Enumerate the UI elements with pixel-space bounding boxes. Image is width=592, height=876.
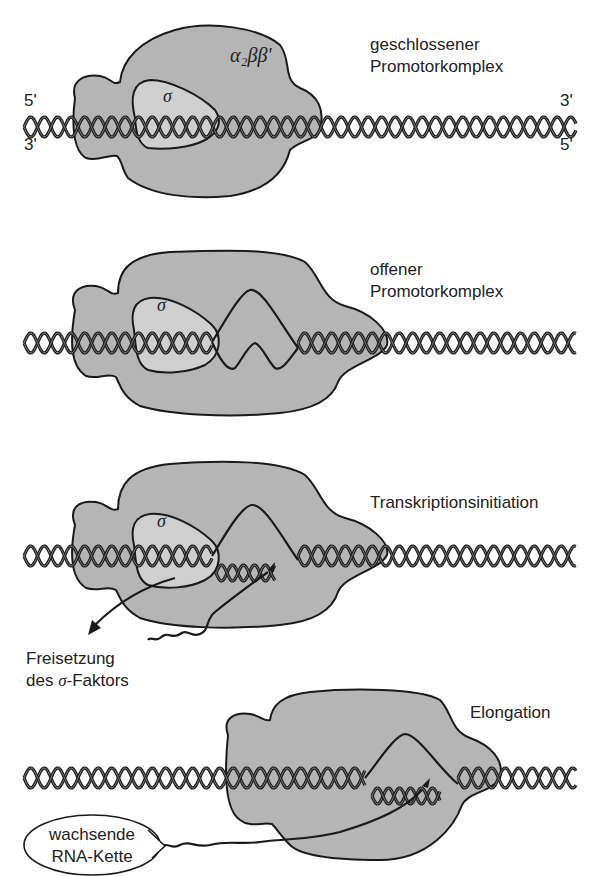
panel-label-line2: Promotorkomplex	[370, 57, 504, 76]
transcription-diagram: α₂ββ' σ geschlossener Promotorkomplex 5'…	[0, 0, 592, 876]
rna-polymerase-core-body	[72, 462, 387, 628]
strand-end-3prime-bottom-left: 3'	[24, 135, 37, 154]
panel-transcription-initiation: σ Transkriptionsinitiation Freisetzung d…	[24, 462, 576, 690]
panel-open-promoter-complex: σ offener Promotorkomplex	[24, 251, 576, 416]
panel-label: Transkriptionsinitiation	[370, 493, 539, 512]
panel-closed-promoter-complex: α₂ββ' σ geschlossener Promotorkomplex 5'…	[24, 26, 576, 198]
panel-label-line1: offener	[370, 260, 423, 279]
sigma-label: σ	[163, 86, 173, 106]
rna-polymerase-core-body	[72, 251, 387, 416]
sigma-label: σ	[157, 295, 167, 315]
panel-label-line2: Promotorkomplex	[370, 282, 504, 301]
sigma-label: σ	[157, 511, 167, 531]
rna-label-bubble	[24, 815, 160, 875]
strand-end-3prime-top-right: 3'	[560, 91, 573, 110]
panel-label-line1: geschlossener	[370, 35, 480, 54]
sigma-release-label-line2: des σ-Faktors	[26, 671, 129, 690]
rna-label-line1: wachsende	[48, 825, 135, 844]
sigma-release-label-line1: Freisetzung	[26, 649, 115, 668]
rna-label-line2: RNA-Kette	[51, 847, 132, 866]
strand-end-5prime-top-left: 5'	[24, 91, 37, 110]
strand-end-5prime-bottom-right: 5'	[560, 135, 573, 154]
panel-elongation: wachsende RNA-Kette Elongation	[24, 690, 576, 875]
enzyme-subunit-label: α₂ββ'	[230, 44, 272, 67]
panel-label: Elongation	[470, 703, 550, 722]
